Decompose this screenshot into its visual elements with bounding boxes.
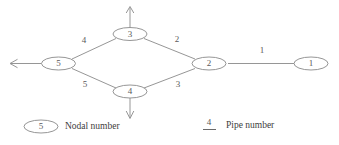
pipe-network-diagram: 1 2 3 4 5 1 2 3 4 5 [0, 0, 339, 145]
pipe-labels: 1 2 3 4 5 [82, 34, 265, 89]
legend: 5 Nodal number 4 Pipe number [24, 117, 275, 133]
pipe-edge-3 [144, 69, 195, 89]
node-2[interactable]: 2 [192, 57, 226, 70]
legend-nodal-number-text: Nodal number [65, 121, 120, 131]
legend-nodal-number: 5 Nodal number [24, 120, 120, 133]
node-1[interactable]: 1 [294, 57, 328, 70]
pipe-label-2: 2 [175, 34, 180, 44]
node-5-label: 5 [56, 58, 61, 68]
legend-pipe-number: 4 Pipe number [203, 117, 275, 130]
node-4[interactable]: 4 [113, 85, 147, 98]
network-graphic: 1 2 3 4 5 1 2 3 4 5 [0, 0, 339, 145]
pipe-label-3: 3 [176, 79, 181, 89]
pipe-label-1: 1 [260, 45, 265, 55]
node-2-label: 2 [207, 58, 212, 68]
node-3-label: 3 [128, 29, 133, 39]
node-1-label: 1 [309, 58, 314, 68]
legend-node-symbol-label: 5 [39, 121, 44, 131]
node-4-label: 4 [128, 86, 133, 96]
legend-pipe-symbol-label: 4 [207, 117, 212, 127]
pipe-edge-4 [72, 39, 116, 60]
pipe-label-5: 5 [83, 79, 88, 89]
pipe-label-4: 4 [82, 35, 87, 45]
node-3[interactable]: 3 [113, 28, 147, 41]
node-5[interactable]: 5 [42, 57, 76, 70]
legend-pipe-number-text: Pipe number [226, 120, 275, 130]
pipe-edge-2 [144, 39, 195, 60]
pipe-edge-5 [72, 69, 116, 89]
